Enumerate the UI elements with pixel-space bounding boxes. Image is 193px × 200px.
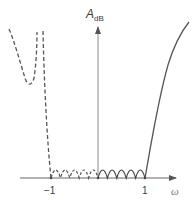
x-axis-label: ω [171, 186, 179, 197]
y-axis-label-sub: dB [94, 14, 104, 23]
y-axis-label: AdB [86, 8, 104, 23]
y-axis-label-main: A [86, 7, 94, 21]
left-transition-curve-dashed [43, 31, 51, 178]
attenuation-chart [0, 0, 193, 200]
x-tick-label-neg1: −1 [44, 186, 55, 196]
left-stopband-curve-dashed [9, 29, 37, 84]
passband-ripple-dashed [51, 170, 98, 178]
x-tick-label-pos1: 1 [142, 186, 148, 196]
passband-ripple-solid [98, 170, 145, 178]
right-stopband-curve-solid [145, 22, 189, 178]
